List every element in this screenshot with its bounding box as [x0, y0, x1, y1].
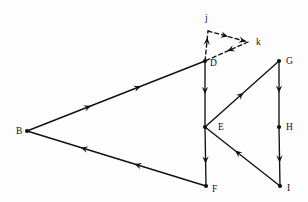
node-labels-layer: BDEFGHIjk [16, 13, 293, 194]
node-label-e: E [218, 122, 224, 132]
edge-f-b [27, 131, 206, 186]
node-dot-b [25, 129, 29, 133]
node-label-b: B [16, 126, 22, 136]
nodes-layer [25, 59, 282, 188]
node-label-f: F [212, 184, 217, 194]
node-dot-h [277, 125, 281, 129]
edge-d-j [205, 31, 208, 61]
node-label-k: k [256, 37, 261, 47]
edge-e-f [205, 127, 206, 186]
node-label-i: I [287, 183, 290, 193]
arrowhead-f-b-1 [133, 161, 142, 169]
node-label-d: D [210, 58, 217, 68]
node-dot-f [204, 184, 208, 188]
arrowhead-f-b-2 [80, 144, 89, 152]
arrowhead-b-d-2 [133, 83, 142, 92]
node-label-g: G [286, 56, 293, 66]
node-dot-g [277, 59, 281, 63]
arrowhead-b-d-1 [83, 103, 92, 112]
arrowhead-j-k-1 [220, 32, 229, 40]
edge-i-e [205, 127, 280, 186]
node-dot-d [203, 59, 207, 63]
edge-h-i [279, 127, 280, 186]
node-dot-i [278, 184, 282, 188]
edges-layer [27, 31, 280, 186]
diagram-svg: BDEFGHIjk [0, 0, 308, 202]
arrowheads-layer [80, 32, 283, 170]
node-label-j: j [204, 13, 208, 23]
edge-b-d [27, 61, 205, 131]
node-dot-e [203, 125, 207, 129]
node-label-h: H [286, 122, 293, 132]
diagram-canvas: BDEFGHIjk [0, 0, 308, 202]
arrowhead-k-d-1 [226, 45, 235, 54]
